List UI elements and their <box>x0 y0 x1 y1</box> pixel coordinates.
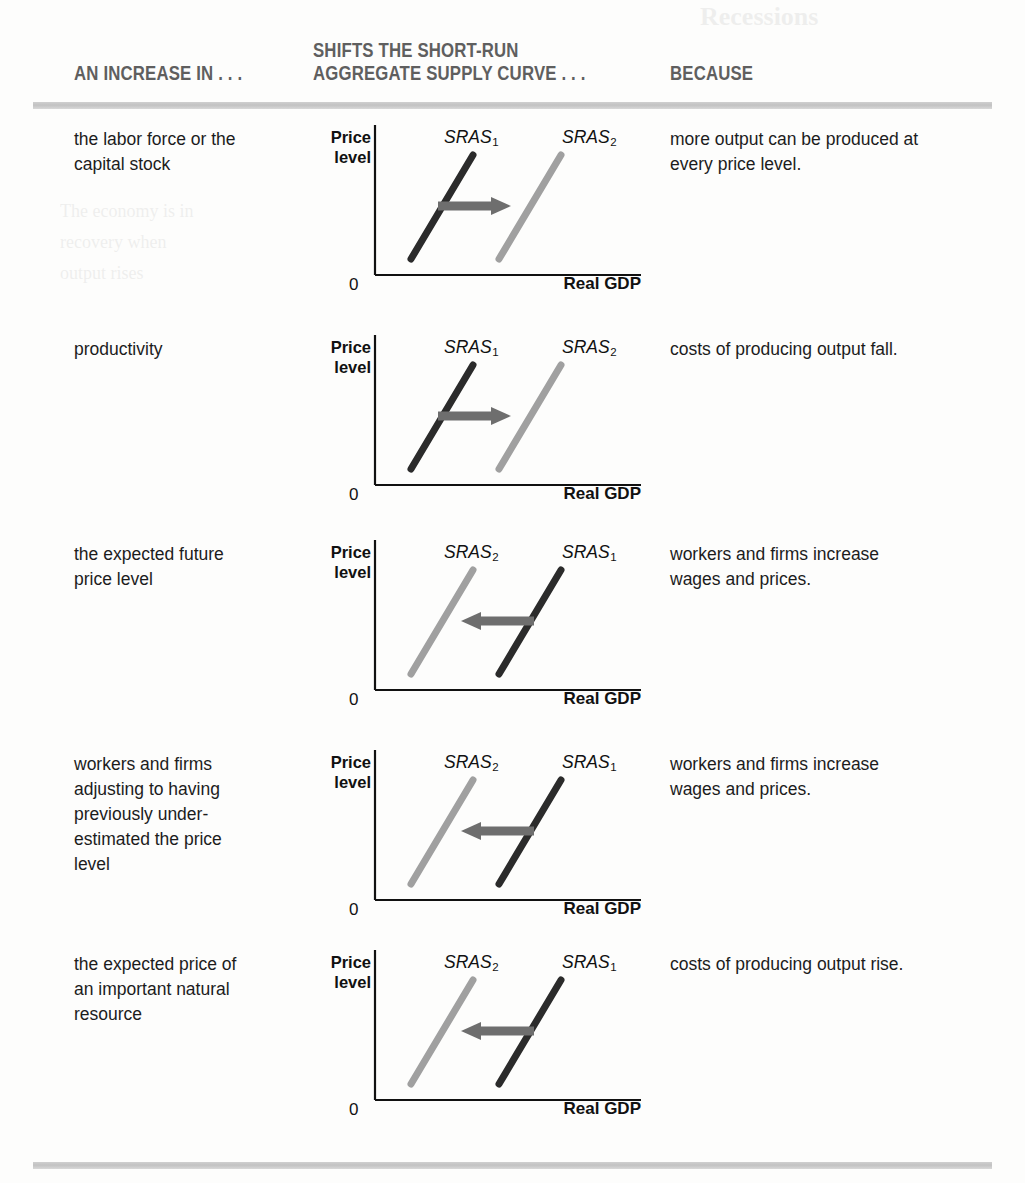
sras-shift-chart: Price level 0 Real GDP SRAS1 SRAS2 <box>313 123 658 318</box>
curve-label-right: SRAS1 <box>562 952 616 973</box>
curve-label-left: SRAS2 <box>444 752 498 773</box>
column-header-cause: AN INCREASE IN . . . <box>74 62 242 85</box>
table-row: the expected price of an important natur… <box>0 952 1025 1157</box>
origin-label: 0 <box>349 900 358 920</box>
y-axis-label: Price level <box>313 752 371 792</box>
curve-label-right: SRAS1 <box>562 752 616 773</box>
table-row: productivity Price level 0 Real GDP SRAS… <box>0 337 1025 542</box>
origin-label: 0 <box>349 485 358 505</box>
sras-shift-chart: Price level 0 Real GDP SRAS2 SRAS1 <box>313 948 658 1143</box>
y-axis-label: Price level <box>313 542 371 582</box>
x-axis-label: Real GDP <box>483 899 641 919</box>
curve-label-right: SRAS2 <box>562 127 616 148</box>
y-axis-label: Price level <box>313 952 371 992</box>
cause-text: the expected price of an important natur… <box>74 952 299 1027</box>
cause-text: workers and firms adjusting to having pr… <box>74 752 299 877</box>
x-axis-label: Real GDP <box>483 484 641 504</box>
table-row: the expected future price level Price le… <box>0 542 1025 752</box>
table-bottom-rule <box>33 1162 992 1169</box>
because-text: costs of producing output rise. <box>670 952 1000 977</box>
origin-label: 0 <box>349 275 358 295</box>
origin-label: 0 <box>349 690 358 710</box>
origin-label: 0 <box>349 1100 358 1120</box>
table-row: workers and firms adjusting to having pr… <box>0 752 1025 952</box>
curve-label-right: SRAS2 <box>562 337 616 358</box>
sras-shift-chart: Price level 0 Real GDP SRAS1 SRAS2 <box>313 333 658 528</box>
curve-label-right: SRAS1 <box>562 542 616 563</box>
cause-text: the expected future price level <box>74 542 299 592</box>
cause-text: productivity <box>74 337 299 362</box>
because-text: costs of producing output fall. <box>670 337 1000 362</box>
because-text: workers and firms increase wages and pri… <box>670 542 1000 592</box>
cause-text: the labor force or the capital stock <box>74 127 299 177</box>
x-axis-label: Real GDP <box>483 689 641 709</box>
table-top-rule <box>33 102 992 109</box>
sras-shift-chart: Price level 0 Real GDP SRAS2 SRAS1 <box>313 538 658 733</box>
because-text: workers and firms increase wages and pri… <box>670 752 1000 802</box>
x-axis-label: Real GDP <box>483 1099 641 1119</box>
y-axis-label: Price level <box>313 127 371 167</box>
because-text: more output can be produced at every pri… <box>670 127 1000 177</box>
column-header-because: BECAUSE <box>670 62 753 85</box>
table-row: the labor force or the capital stock Pri… <box>0 127 1025 337</box>
curve-label-left: SRAS2 <box>444 952 498 973</box>
y-axis-label: Price level <box>313 337 371 377</box>
column-header-shift: SHIFTS THE SHORT-RUN AGGREGATE SUPPLY CU… <box>313 39 586 85</box>
curve-label-left: SRAS1 <box>444 127 498 148</box>
sras-shift-chart: Price level 0 Real GDP SRAS2 SRAS1 <box>313 748 658 943</box>
curve-label-left: SRAS1 <box>444 337 498 358</box>
x-axis-label: Real GDP <box>483 274 641 294</box>
curve-label-left: SRAS2 <box>444 542 498 563</box>
